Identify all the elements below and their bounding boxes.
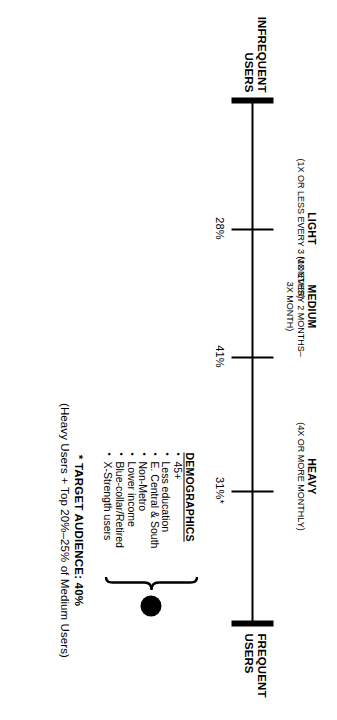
segment-name-medium: MEDIUM [305,248,317,364]
segment-description-medium: (1X EVERY 2 MONTHS– 3X MONTH) [284,248,305,364]
demographics-callout: DEMOGRAPHICS 45+ Less education E. Centr… [101,452,195,574]
demographics-title: DEMOGRAPHICS [183,452,195,574]
footnote: * TARGET AUDIENCE: 40% (Heavy Users + To… [57,350,85,710]
axis-tick-light [231,228,273,230]
list-item: Less education [159,452,171,574]
endpoint-label-frequent-users: FREQUENT USERS [242,633,267,717]
segment-name-heavy: HEAVY [305,378,317,574]
list-item: 45+ [170,452,182,574]
segment-value-medium: 41% [213,332,225,380]
curly-brace-icon [104,575,198,591]
list-item: E. Central & South [147,452,159,574]
target-audience-dot [140,595,161,616]
endpoint-label-infrequent-users: INFREQUENT USERS [242,8,267,92]
footnote-target-audience-detail: (Heavy Users + Top 20%–25% of Medium Use… [57,350,71,710]
axis-tick-medium [231,356,273,358]
segment-label-heavy: HEAVY (4X OR MORE MONTHLY) [295,378,318,574]
list-item: Non-Metro [136,452,148,574]
axis-endcap-infrequent [231,97,273,103]
axis-tick-heavy [231,490,273,492]
list-item: Lower income [124,452,136,574]
segment-label-medium: MEDIUM (1X EVERY 2 MONTHS– 3X MONTH) [284,248,317,364]
demographics-list: 45+ Less education E. Central & South No… [101,452,182,574]
list-item: X-Strength users [101,452,113,574]
segment-value-heavy: 31%* [213,466,225,514]
segment-description-heavy: (4X OR MORE MONTHLY) [295,378,306,574]
list-item: Blue-collar/Retired [112,452,124,574]
footnote-target-audience: * TARGET AUDIENCE: 40% [71,350,85,710]
diagram-viewport: INFREQUENT USERS FREQUENT USERS LIGHT (1… [0,0,337,720]
axis-endcap-frequent [231,620,273,626]
segment-value-light: 28% [213,204,225,252]
usage-continuum-diagram: INFREQUENT USERS FREQUENT USERS LIGHT (1… [0,0,337,720]
continuum-axis-line [251,100,253,623]
